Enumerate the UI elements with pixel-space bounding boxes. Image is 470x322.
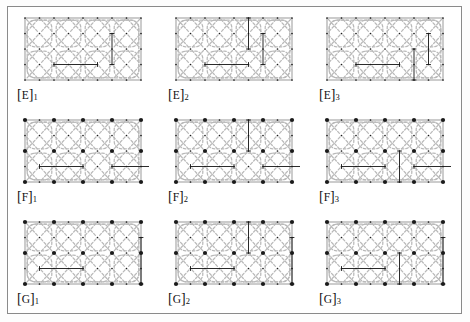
kolam-drawing-E1 — [17, 13, 149, 87]
label-subscript: 2 — [186, 296, 190, 306]
label-bracket-close: ] — [30, 291, 35, 306]
panel-label-G2: [G]2 — [168, 291, 190, 307]
label-bracket-close: ] — [181, 291, 186, 306]
label-letter: G — [173, 293, 181, 305]
label-subscript: 2 — [184, 194, 188, 204]
label-subscript: 2 — [184, 92, 188, 102]
label-bracket-close: ] — [332, 291, 337, 306]
kolam-panel-E1: [E]1 — [8, 7, 159, 109]
kolam-drawing-E2 — [168, 13, 300, 87]
kolam-panel-G2: [G]2 — [159, 211, 310, 313]
panel-label-E1: [E]1 — [17, 87, 38, 103]
label-subscript: 3 — [335, 194, 339, 204]
panel-label-F3: [F]3 — [319, 189, 339, 205]
label-subscript: 1 — [33, 194, 37, 204]
panel-label-F1: [F]1 — [17, 189, 37, 205]
panel-label-E2: [E]2 — [168, 87, 189, 103]
kolam-drawing-F1 — [17, 115, 149, 189]
panel-label-F2: [F]2 — [168, 189, 188, 205]
panel-label-E3: [E]3 — [319, 87, 340, 103]
kolam-drawing-G3 — [319, 217, 451, 291]
kolam-panel-G1: [G]1 — [8, 211, 159, 313]
kolam-drawing-G1 — [17, 217, 149, 291]
label-letter: G — [22, 293, 30, 305]
label-letter: E — [173, 89, 180, 101]
label-subscript: 1 — [35, 296, 39, 306]
kolam-panel-E2: [E]2 — [159, 7, 310, 109]
panel-grid: [E]1 [E]2 [E]3 [F]1 [F]2 — [8, 7, 461, 313]
panel-label-G3: [G]3 — [319, 291, 341, 307]
kolam-drawing-E3 — [319, 13, 451, 87]
figure-frame: [E]1 [E]2 [E]3 [F]1 [F]2 — [7, 6, 462, 314]
kolam-panel-G3: [G]3 — [310, 211, 461, 313]
label-subscript: 3 — [337, 296, 341, 306]
kolam-panel-F2: [F]2 — [159, 109, 310, 211]
panel-label-G1: [G]1 — [17, 291, 39, 307]
kolam-panel-E3: [E]3 — [310, 7, 461, 109]
kolam-drawing-G2 — [168, 217, 300, 291]
kolam-drawing-F3 — [319, 115, 451, 189]
kolam-panel-F3: [F]3 — [310, 109, 461, 211]
kolam-drawing-F2 — [168, 115, 300, 189]
label-subscript: 3 — [335, 92, 339, 102]
label-letter: G — [324, 293, 332, 305]
label-letter: E — [22, 89, 29, 101]
kolam-panel-F1: [F]1 — [8, 109, 159, 211]
label-subscript: 1 — [33, 92, 37, 102]
label-letter: E — [324, 89, 331, 101]
